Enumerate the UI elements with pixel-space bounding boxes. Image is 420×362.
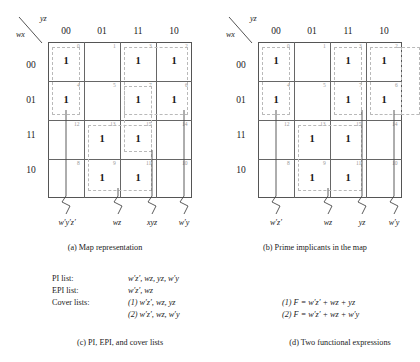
leader-line-a-2 [146, 150, 162, 214]
map-a-panel: yz wx 00 01 11 10 00 01 11 10 0 1 3 2 4 … [0, 0, 210, 270]
term-label-b-3: w′y [373, 218, 415, 227]
expressions-panel: (1) F = w′z′ + wz + yz (2) F = w′z′ + wz… [260, 270, 420, 362]
col-header-1-a: 01 [84, 26, 120, 36]
leader-line-b-3 [388, 110, 404, 214]
col-header-2-a: 11 [120, 26, 156, 36]
row-header-1-b: 01 [228, 95, 254, 105]
cell-number-a-8: 8 [77, 160, 80, 166]
col-header-3-a: 10 [156, 26, 192, 36]
leader-line-b-2 [356, 110, 372, 214]
caption-c: (c) PI, EPI, and cover lists [30, 338, 210, 347]
pi-list-value: w′z′, wz, yz, w′y [128, 274, 179, 283]
leader-line-b-0 [270, 110, 286, 214]
cell-number-b-5: 5 [323, 82, 326, 88]
expression-line-2: (2) F = w′z′ + wz + w′y [282, 310, 359, 319]
group-a-w-prime-y [124, 47, 188, 115]
cell-number-a-5: 5 [113, 82, 116, 88]
cell-number-b-8: 8 [287, 160, 290, 166]
col-header-3-b: 10 [366, 26, 402, 36]
row-header-3-b: 10 [228, 165, 254, 175]
group-a-w-y-z-prime [52, 47, 80, 115]
row-header-0-a: 00 [18, 60, 44, 70]
col-header-0-a: 00 [48, 26, 84, 36]
col-header-2-b: 11 [330, 26, 366, 36]
axis-left-label-a: wx [16, 30, 34, 39]
epi-list-value: w′z′, wz [128, 286, 153, 295]
row-header-0-b: 00 [228, 60, 254, 70]
epi-list-label: EPI list: [52, 286, 79, 295]
leader-line-b-1 [322, 188, 338, 214]
axis-top-label-b: yz [250, 14, 268, 23]
term-label-b-0: w′z′ [254, 218, 298, 227]
map-b-panel: yz wx 00 01 11 10 00 01 11 10 0 1 3 2 4 … [210, 0, 420, 270]
cover-lists-label: Cover lists: [52, 298, 90, 307]
caption-a: (a) Map representation [0, 243, 210, 252]
cover-list-value-1: (1) w′z′, wz, yz [128, 298, 175, 307]
term-label-a-0: w′y′z′ [42, 218, 92, 227]
group-b-w-prime-y-wrap-left [396, 47, 420, 115]
caption-d: (d) Two functional expressions [260, 338, 420, 347]
group-b-w-prime-z-prime [262, 47, 290, 115]
row-header-1-a: 01 [18, 95, 44, 105]
lists-panel: PI list: w′z′, wz, yz, w′y EPI list: w′z… [0, 270, 260, 362]
col-header-0-b: 00 [258, 26, 294, 36]
term-label-a-3: w′y [163, 218, 205, 227]
row-header-2-b: 11 [228, 130, 254, 140]
axis-left-label-b: wx [226, 30, 244, 39]
pi-list-label: PI list: [52, 274, 74, 283]
leader-line-a-1 [112, 188, 128, 214]
row-header-2-a: 11 [18, 130, 44, 140]
cell-number-b-1: 1 [323, 43, 326, 49]
leader-line-a-0 [60, 110, 76, 214]
expression-line-1: (1) F = w′z′ + wz + yz [282, 298, 355, 307]
group-b-yz [334, 47, 362, 115]
leader-line-a-3 [178, 110, 194, 214]
cell-number-a-1: 1 [113, 43, 116, 49]
axis-top-label-a: yz [40, 14, 58, 23]
cover-list-value-2: (2) w′z′, wz, w′y [128, 310, 180, 319]
col-header-1-b: 01 [294, 26, 330, 36]
row-header-3-a: 10 [18, 165, 44, 175]
caption-b: (b) Prime implicants in the map [210, 243, 420, 252]
group-b-wz [298, 125, 362, 191]
